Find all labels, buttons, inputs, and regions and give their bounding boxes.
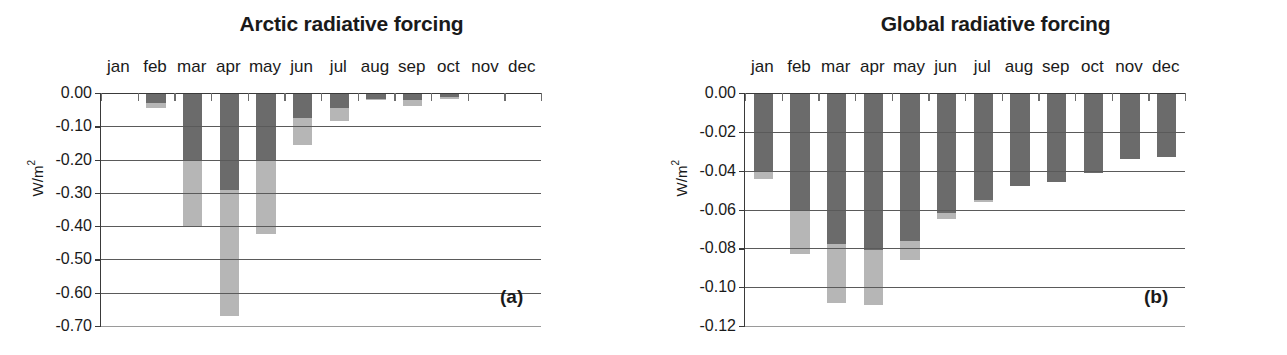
x-tick-label-nov: nov — [467, 56, 504, 78]
bar-segment-light-sep — [403, 100, 422, 105]
x-axis-month-labels-global: janfebmaraprmayjunjulaugsepoctnovdec — [744, 56, 1184, 78]
gridline — [101, 293, 541, 294]
y-tick-label: 0.00 — [705, 84, 736, 102]
bar-segment-dark-mar — [827, 93, 846, 244]
x-tick-label-dec: dec — [503, 56, 540, 78]
x-tick-mark — [321, 93, 322, 101]
x-tick-mark — [101, 93, 102, 101]
bar-segment-light-mar — [827, 244, 846, 302]
bar-aug — [366, 93, 385, 326]
radiative-forcing-figure: Arctic radiative forcing janfebmaraprmay… — [0, 0, 1287, 355]
x-tick-label-aug: aug — [1001, 56, 1038, 78]
x-tick-mark — [504, 93, 505, 101]
y-tick-label: -0.06 — [700, 201, 736, 219]
panel-arctic: Arctic radiative forcing janfebmaraprmay… — [0, 0, 643, 355]
gridline — [745, 326, 1185, 327]
bar-segment-dark-feb — [146, 93, 165, 103]
bar-jun — [293, 93, 312, 326]
bar-jul — [330, 93, 349, 326]
y-tick-mark — [95, 293, 101, 294]
bar-segment-light-may — [256, 160, 275, 235]
bar-segment-light-oct — [440, 97, 459, 98]
x-tick-mark — [818, 93, 819, 101]
bar-feb — [146, 93, 165, 326]
bar-segment-dark-apr — [220, 93, 239, 190]
x-tick-mark — [211, 93, 212, 101]
x-tick-mark — [1002, 93, 1003, 101]
x-tick-mark — [965, 93, 966, 101]
bar-segment-light-may — [900, 241, 919, 260]
panel-global: Global radiative forcing janfebmaraprmay… — [644, 0, 1287, 355]
y-tick-label: -0.04 — [700, 162, 736, 180]
x-tick-label-mar: mar — [173, 56, 210, 78]
bar-jan — [110, 93, 129, 326]
bar-segment-light-apr — [864, 250, 883, 304]
x-tick-mark — [394, 93, 395, 101]
y-tick-label: -0.10 — [56, 117, 92, 135]
y-tick-mark — [95, 126, 101, 127]
x-tick-label-jun: jun — [927, 56, 964, 78]
bar-nov — [476, 93, 495, 326]
bar-segment-dark-jun — [293, 93, 312, 118]
bar-mar — [183, 93, 202, 326]
x-tick-mark — [1112, 93, 1113, 101]
x-tick-mark — [284, 93, 285, 101]
gridline — [745, 287, 1185, 288]
bar-segment-dark-dec — [1157, 93, 1176, 157]
x-tick-label-oct: oct — [1074, 56, 1111, 78]
gridline — [101, 326, 541, 327]
y-tick-mark — [739, 132, 745, 133]
bar-segment-light-feb — [146, 103, 165, 108]
x-tick-mark — [892, 93, 893, 101]
bar-oct — [440, 93, 459, 326]
y-tick-mark — [739, 171, 745, 172]
x-tick-label-jan: jan — [100, 56, 137, 78]
x-tick-label-dec: dec — [1147, 56, 1184, 78]
gridline — [745, 132, 1185, 133]
bar-segment-light-aug — [366, 99, 385, 100]
x-tick-mark — [174, 93, 175, 101]
bar-sep — [403, 93, 422, 326]
y-tick-label: -0.12 — [700, 317, 736, 335]
x-tick-label-jul: jul — [964, 56, 1001, 78]
y-tick-mark — [95, 193, 101, 194]
bar-segment-light-jan — [754, 171, 773, 180]
x-tick-label-may: may — [891, 56, 928, 78]
x-tick-mark — [782, 93, 783, 101]
y-tick-mark — [95, 226, 101, 227]
x-tick-mark — [248, 93, 249, 101]
x-tick-label-apr: apr — [854, 56, 891, 78]
chart-title-arctic: Arctic radiative forcing — [0, 12, 673, 36]
gridline — [101, 126, 541, 127]
x-tick-label-feb: feb — [137, 56, 174, 78]
y-tick-label: -0.60 — [56, 284, 92, 302]
y-tick-label: -0.40 — [56, 217, 92, 235]
bars-layer-arctic — [101, 93, 541, 326]
bar-segment-light-jul — [330, 108, 349, 121]
bar-segment-dark-may — [900, 93, 919, 241]
panel-label-b: (b) — [1144, 286, 1168, 308]
x-tick-mark — [1075, 93, 1076, 101]
y-tick-mark — [95, 160, 101, 161]
y-axis-tick-labels-arctic: 0.00-0.10-0.20-0.30-0.40-0.50-0.60-0.70 — [42, 93, 92, 326]
x-tick-label-nov: nov — [1111, 56, 1148, 78]
bar-segment-dark-feb — [790, 93, 809, 210]
y-tick-label: -0.02 — [700, 123, 736, 141]
y-tick-mark — [739, 326, 745, 327]
x-tick-mark — [431, 93, 432, 101]
x-axis-month-labels-arctic: janfebmaraprmayjunjulaugsepoctnovdec — [100, 56, 540, 78]
x-tick-mark — [928, 93, 929, 101]
x-tick-label-jun: jun — [283, 56, 320, 78]
bar-segment-dark-jun — [937, 93, 956, 213]
bar-segment-dark-jul — [974, 93, 993, 200]
x-tick-mark — [358, 93, 359, 101]
x-tick-label-oct: oct — [430, 56, 467, 78]
bar-segment-dark-sep — [1047, 93, 1066, 182]
x-tick-mark — [855, 93, 856, 101]
bar-apr — [220, 93, 239, 326]
y-tick-mark — [739, 287, 745, 288]
gridline — [101, 160, 541, 161]
y-tick-label: 0.00 — [61, 84, 92, 102]
x-tick-label-may: may — [247, 56, 284, 78]
y-tick-label: -0.50 — [56, 250, 92, 268]
